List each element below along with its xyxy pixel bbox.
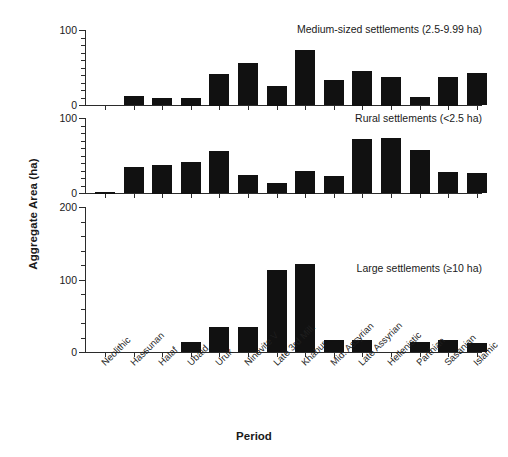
- bar: [95, 192, 115, 194]
- x-axis-tick: [477, 194, 478, 198]
- y-axis-tick: [81, 156, 85, 157]
- y-axis-tick: [81, 90, 85, 91]
- y-axis-tick: [81, 294, 85, 295]
- y-axis-tick-label: 100: [7, 275, 77, 286]
- panel-caption: Medium-sized settlements (2.5-9.99 ha): [0, 23, 482, 35]
- x-axis-tick: [448, 194, 449, 198]
- bar: [238, 175, 258, 193]
- x-axis-tick: [105, 106, 106, 110]
- x-axis-tick: [420, 194, 421, 198]
- panel-caption: Large settlements (≥10 ha): [0, 262, 482, 274]
- y-axis-tick: [81, 148, 85, 149]
- y-axis-tick: [79, 193, 85, 194]
- x-axis-tick: [305, 106, 306, 110]
- x-axis-tick: [162, 194, 163, 198]
- x-axis-tick: [162, 106, 163, 110]
- y-axis-tick: [81, 53, 85, 54]
- y-axis-tick: [79, 207, 85, 208]
- y-axis-tick: [81, 83, 85, 84]
- x-axis-tick: [191, 194, 192, 198]
- y-axis-tick-label: 0: [7, 100, 77, 111]
- x-axis-category-labels: NeolithicHassunanHalafUbaidUrukNinevite …: [0, 356, 508, 426]
- bar: [410, 150, 430, 194]
- bar: [181, 162, 201, 194]
- bar: [238, 63, 258, 105]
- bar: [267, 86, 287, 106]
- x-axis-tick: [277, 194, 278, 198]
- bar: [181, 98, 201, 106]
- bar: [438, 77, 458, 106]
- y-axis-tick: [81, 45, 85, 46]
- y-axis-tick: [81, 68, 85, 69]
- y-axis-tick: [79, 280, 85, 281]
- bar: [438, 172, 458, 193]
- bar: [467, 173, 487, 193]
- y-axis-tick: [81, 75, 85, 76]
- x-axis-tick: [219, 106, 220, 110]
- x-axis-tick: [134, 106, 135, 110]
- y-axis-line: [85, 118, 86, 194]
- bar: [352, 139, 372, 193]
- y-axis-tick: [81, 178, 85, 179]
- bar: [352, 71, 372, 106]
- bar: [124, 167, 144, 193]
- x-axis-tick: [362, 106, 363, 110]
- x-axis-tick: [362, 194, 363, 198]
- bar: [152, 98, 172, 105]
- y-axis-tick: [81, 251, 85, 252]
- y-axis-tick: [81, 98, 85, 99]
- bar: [124, 96, 144, 105]
- y-axis-tick: [81, 133, 85, 134]
- y-axis-tick: [81, 236, 85, 237]
- bar: [209, 151, 229, 193]
- x-axis-tick: [248, 194, 249, 198]
- x-axis-tick: [334, 194, 335, 198]
- y-axis-tick: [81, 38, 85, 39]
- y-axis-tick: [81, 171, 85, 172]
- x-axis-category-label: Halaf: [156, 344, 179, 367]
- y-axis-tick: [81, 163, 85, 164]
- x-axis-tick: [391, 194, 392, 198]
- bar: [381, 138, 401, 193]
- x-axis-tick: [191, 106, 192, 110]
- y-axis-tick: [79, 105, 85, 106]
- bar: [324, 176, 344, 193]
- bar: [295, 171, 315, 194]
- y-axis-tick: [81, 186, 85, 187]
- x-axis-tick: [448, 106, 449, 110]
- x-axis-tick: [134, 194, 135, 198]
- y-axis-tick: [81, 323, 85, 324]
- figure-bar-chart-settlement-area: Aggregate Area (ha) 0100Medium-sized set…: [0, 0, 508, 457]
- y-axis-tick: [81, 309, 85, 310]
- bar: [209, 74, 229, 106]
- bar: [324, 80, 344, 105]
- x-axis-tick: [391, 106, 392, 110]
- x-axis-tick: [334, 106, 335, 110]
- y-axis-tick: [81, 222, 85, 223]
- panel-caption: Rural settlements (<2.5 ha): [0, 112, 482, 124]
- y-axis-tick: [81, 126, 85, 127]
- x-axis-category-label: Neolithic: [99, 334, 133, 368]
- bar: [381, 77, 401, 106]
- x-axis-tick: [219, 194, 220, 198]
- x-axis-tick: [105, 194, 106, 198]
- y-axis-line: [85, 30, 86, 106]
- x-axis-tick: [420, 106, 421, 110]
- x-axis-tick: [477, 106, 478, 110]
- y-axis-tick-label: 200: [7, 202, 77, 213]
- bar: [267, 183, 287, 193]
- x-axis-title: Period: [0, 430, 508, 442]
- y-axis-tick-label: 0: [7, 188, 77, 199]
- bar: [152, 165, 172, 194]
- x-axis-tick: [248, 106, 249, 110]
- x-axis-tick: [277, 106, 278, 110]
- y-axis-tick: [81, 60, 85, 61]
- y-axis-tick: [79, 352, 85, 353]
- y-axis-line: [85, 207, 86, 353]
- bar: [467, 73, 487, 105]
- bar: [410, 97, 430, 105]
- x-axis-tick: [305, 194, 306, 198]
- y-axis-tick: [81, 338, 85, 339]
- y-axis-tick: [81, 141, 85, 142]
- bar: [295, 50, 315, 105]
